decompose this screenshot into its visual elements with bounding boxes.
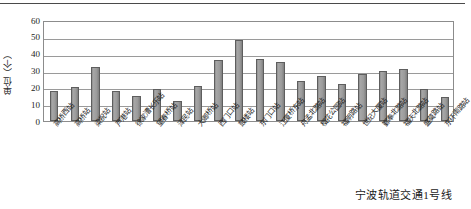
x-axis-tick-labels: 高桥西站高桥站梁祝站芦港站徐家漕长乐站望春桥站泽民站大卿桥站西门口站鼓楼站东门口… (43, 123, 454, 185)
y-tick-label: 60 (17, 17, 40, 26)
y-tick-label: 20 (17, 84, 40, 93)
y-axis-title: 单位（个） (2, 34, 16, 112)
bar (358, 74, 366, 121)
y-tick-label: 30 (17, 67, 40, 76)
y-tick-label: 50 (17, 33, 40, 42)
y-axis-tick-labels: 0102030405060 (17, 18, 40, 122)
figure-caption: 宁波轨道交通1号线 (355, 189, 452, 202)
bar (399, 69, 407, 121)
top-divider (0, 3, 465, 4)
y-tick-label: 10 (17, 101, 40, 110)
bar (91, 67, 99, 121)
bar (256, 59, 264, 121)
y-tick-label: 40 (17, 50, 40, 59)
y-tick-label: 0 (17, 118, 40, 127)
